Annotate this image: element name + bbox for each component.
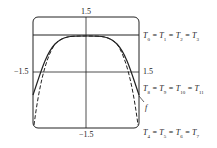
plot-svg [0,0,217,148]
curve-label-f: f [145,103,147,112]
equation-upper: T0 = T1 = T2 = T3 [143,31,199,44]
equation-lower: T4 = T5 = T6 = T7 [143,128,199,141]
x-min-label: −1.5 [14,68,29,76]
y-min-label: −1.5 [79,131,94,139]
equation-middle: T8 = T9 = T10 = T11 [143,84,204,97]
f-pointer [139,96,144,102]
y-max-label: 1.5 [81,8,91,16]
x-max-label: 1.5 [143,68,153,76]
